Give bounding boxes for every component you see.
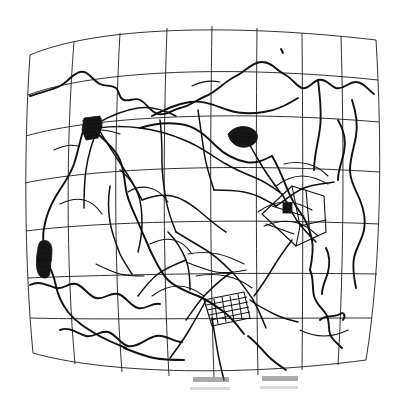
map-figure <box>0 0 406 397</box>
marker-dot-north <box>281 49 283 53</box>
marker-square-east <box>283 203 292 213</box>
map-canvas <box>0 0 406 397</box>
coastline-layer <box>30 62 374 348</box>
graticule-meridians <box>26 26 380 377</box>
graticule-layer <box>25 26 380 377</box>
urban-area-southwest <box>36 240 52 278</box>
smudge-right <box>262 376 298 381</box>
built-up-zone-south <box>204 292 250 326</box>
caption-zone <box>0 371 406 397</box>
smudge-right-shadow <box>260 386 298 389</box>
smudge-left <box>193 377 229 382</box>
smudge-left-shadow <box>190 387 230 390</box>
lake-north-central <box>228 127 257 148</box>
